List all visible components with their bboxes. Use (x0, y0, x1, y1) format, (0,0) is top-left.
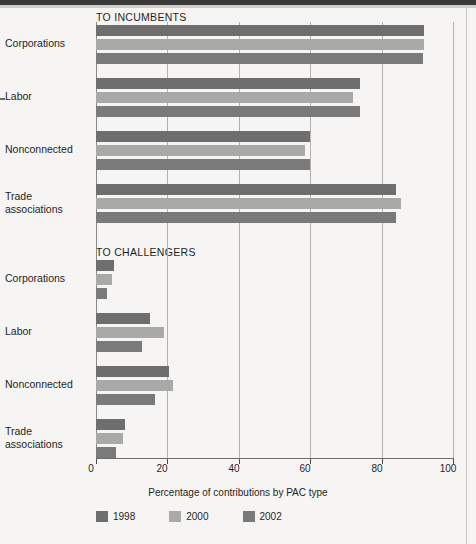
legend: 199820002002 (96, 511, 316, 522)
legend-label-2000: 2000 (186, 511, 208, 522)
category-label-line: associations (5, 438, 91, 451)
x-axis-line (96, 458, 454, 459)
category-label-to-incumbents-nonconnected: Nonconnected (5, 143, 91, 156)
bar-1998-corporations (96, 25, 424, 36)
bar-2000-nonconnected (96, 380, 173, 391)
category-label-line: Trade (5, 190, 91, 203)
bar-1998-nonconnected (96, 131, 310, 142)
x-tick-label-20: 20 (147, 463, 177, 474)
bar-2002-trade-associations (96, 212, 396, 223)
category-label-to-challengers-corporations: Corporations (5, 272, 91, 285)
x-tick-label-40: 40 (219, 463, 249, 474)
category-label-line: Trade (5, 425, 91, 438)
category-label-to-incumbents-labor: Labor (5, 90, 91, 103)
section-title-incumbents: TO INCUMBENTS (96, 11, 187, 23)
bar-2000-trade-associations (96, 433, 123, 444)
category-label-line: associations (5, 203, 91, 216)
bar-1998-labor (96, 313, 150, 324)
bar-1998-corporations (96, 260, 114, 271)
bar-2002-corporations (96, 288, 107, 299)
gridline-80 (382, 22, 383, 458)
legend-label-2002: 2002 (260, 511, 282, 522)
page-top-edge-light (0, 5, 476, 8)
x-tick-label-100: 100 (433, 463, 463, 474)
category-label-to-incumbents-corporations: Corporations (5, 37, 91, 50)
x-tick-label-0: 0 (76, 463, 106, 474)
bar-2002-trade-associations (96, 447, 116, 458)
bar-2000-nonconnected (96, 145, 305, 156)
category-label-to-challengers-labor: Labor (5, 325, 91, 338)
bar-1998-nonconnected (96, 366, 169, 377)
bar-2000-labor (96, 327, 164, 338)
legend-item-2002: 2002 (243, 511, 282, 522)
legend-swatch-2000 (169, 511, 181, 522)
category-label-line: Corporations (5, 37, 91, 50)
chart-figure: TO INCUMBENTS TO CHALLENGERS Corporation… (0, 0, 476, 544)
page-right-margin-rule (466, 8, 467, 544)
bar-2000-labor (96, 92, 353, 103)
gridline-100 (453, 22, 454, 458)
legend-item-1998: 1998 (96, 511, 135, 522)
category-label-line: Corporations (5, 272, 91, 285)
category-label-line: Nonconnected (5, 143, 91, 156)
x-axis-title: Percentage of contributions by PAC type (0, 487, 476, 498)
section-title-challengers: TO CHALLENGERS (96, 246, 196, 258)
legend-swatch-1998 (96, 511, 108, 522)
category-label-to-incumbents-trade-associations: Tradeassociations (5, 190, 91, 215)
category-label-to-challengers-trade-associations: Tradeassociations (5, 425, 91, 450)
bar-1998-trade-associations (96, 184, 396, 195)
legend-swatch-2002 (243, 511, 255, 522)
bar-1998-labor (96, 78, 360, 89)
bar-2002-labor (96, 341, 142, 352)
legend-label-1998: 1998 (113, 511, 135, 522)
category-label-to-challengers-nonconnected: Nonconnected (5, 378, 91, 391)
category-label-line: Labor (5, 325, 91, 338)
bar-2002-corporations (96, 53, 423, 64)
bar-2002-nonconnected (96, 159, 310, 170)
x-tick-label-60: 60 (290, 463, 320, 474)
bar-2002-nonconnected (96, 394, 155, 405)
x-tick-label-80: 80 (362, 463, 392, 474)
bar-2002-labor (96, 106, 360, 117)
category-label-line: Labor (5, 90, 91, 103)
bar-2000-corporations (96, 39, 424, 50)
legend-item-2000: 2000 (169, 511, 208, 522)
bar-1998-trade-associations (96, 419, 125, 430)
category-label-line: Nonconnected (5, 378, 91, 391)
bar-2000-trade-associations (96, 198, 401, 209)
bar-2000-corporations (96, 274, 112, 285)
